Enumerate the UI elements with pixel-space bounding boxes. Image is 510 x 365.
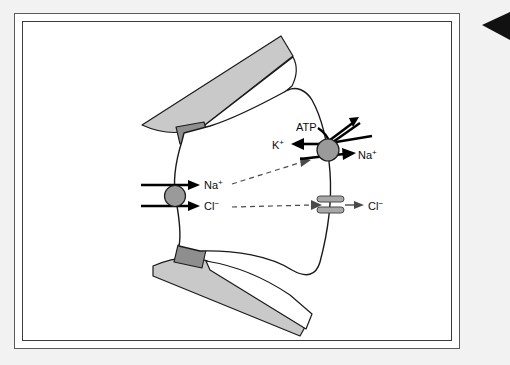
basolateral-pump [317,139,339,161]
ion-transport-diagram: Na+ Cl− [0,0,510,365]
label-atp: ATP [296,121,317,133]
apical-transporter [165,186,186,207]
cl-efflux-arrow [345,201,364,209]
corner-marker-triangle [482,12,510,40]
label-na-basolateral: Na+ [358,148,377,161]
label-cl-basolateral: Cl− [368,199,383,212]
figure-root: Na+ Cl− [0,0,510,365]
